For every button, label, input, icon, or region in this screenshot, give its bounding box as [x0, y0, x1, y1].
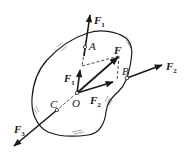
- label-f3: F3: [13, 123, 25, 138]
- label-c: C: [50, 98, 58, 110]
- label-f2-inner: F2: [89, 94, 101, 109]
- label-f1-top: F1: [93, 14, 105, 29]
- point-o: [75, 91, 78, 94]
- force-diagram: A B C O F F1 F1 F2 F2 F3: [0, 0, 187, 159]
- label-f2-outer: F2: [165, 60, 177, 75]
- force-f1-at-o-arrow: [77, 70, 80, 93]
- label-a: A: [88, 40, 96, 52]
- label-f-resultant: F: [113, 44, 122, 56]
- label-b: B: [122, 65, 129, 77]
- label-o: O: [72, 97, 80, 109]
- force-f2-arrow: [127, 65, 162, 78]
- label-f1-inner: F1: [63, 72, 75, 87]
- point-a: [83, 45, 86, 48]
- resultant-f-arrow: [77, 57, 118, 93]
